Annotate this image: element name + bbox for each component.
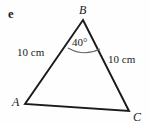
angle-label-b: 40° bbox=[72, 37, 87, 48]
side-label-bc: 10 cm bbox=[108, 54, 135, 65]
vertex-label-b: B bbox=[79, 4, 86, 16]
triangle-abc bbox=[25, 20, 129, 111]
vertex-label-c: C bbox=[133, 111, 141, 123]
side-label-ab: 10 cm bbox=[17, 47, 44, 58]
vertex-label-a: A bbox=[12, 96, 19, 108]
figure-container: e B A C 40° 10 cm 10 cm bbox=[0, 0, 150, 124]
part-label: e bbox=[8, 8, 14, 21]
angle-arc-b bbox=[68, 48, 100, 53]
